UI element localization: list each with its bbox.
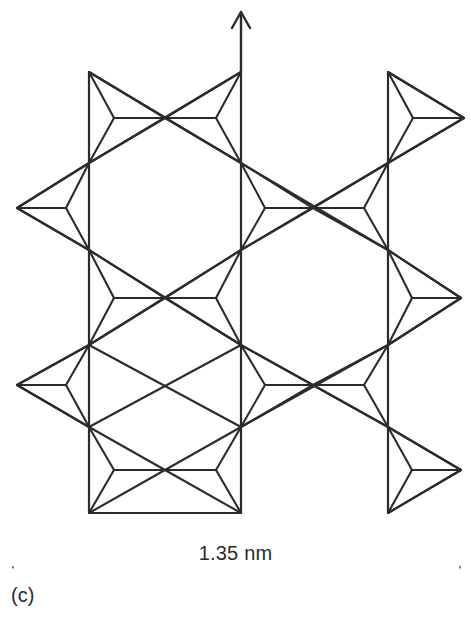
tri-bot-center	[165, 427, 241, 513]
tri-mid1-center-left-outline	[241, 163, 313, 250]
tri-mid1-center-right-outline	[313, 163, 388, 250]
tri-mid3-center-left	[241, 345, 313, 427]
tri-mid2-right-spike	[388, 250, 461, 345]
tri-mid2-center	[165, 250, 241, 345]
tri-top-left-right	[89, 72, 165, 163]
tri-mid3-center-right	[313, 345, 388, 427]
tri-mid1-center-right	[313, 163, 388, 250]
tri-mid3-left-spike	[17, 345, 89, 427]
zeolite-framework-diagram	[0, 0, 471, 625]
tri-mid1-left-spike	[17, 163, 89, 250]
dimension-arrow-1-35-nm	[13, 546, 460, 568]
tri-mid1-left-spike-outline	[17, 163, 89, 250]
tri-mid2-left	[89, 250, 165, 345]
tri-top-right-right	[388, 72, 464, 163]
c-axis-arrow	[232, 12, 250, 72]
tri-bot-right-spike	[388, 427, 461, 513]
panel-label: (c)	[11, 585, 34, 605]
tri-bot-left	[89, 427, 165, 513]
figure-panel-c: 1.35 nm (c)	[0, 0, 471, 625]
tri-mid1-center-left	[241, 163, 313, 250]
tri-top-center-left	[165, 72, 241, 163]
tetrahedra-triangles-group	[17, 72, 464, 513]
